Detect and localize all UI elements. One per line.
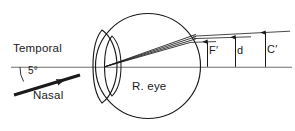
diagram-canvas xyxy=(0,0,295,131)
label-incident-angle: 5° xyxy=(28,66,38,76)
label-nasal: Nasal xyxy=(33,90,63,102)
eye-optics-diagram: Temporal 5° Nasal R. eye F′ d C′ xyxy=(0,0,295,131)
angle-arc xyxy=(20,67,24,81)
label-right-eye: R. eye xyxy=(132,81,166,93)
label-distance: d xyxy=(237,45,243,56)
label-temporal: Temporal xyxy=(13,43,62,55)
label-center-of-rotation: C′ xyxy=(267,44,277,55)
refracted-ray-bundle xyxy=(104,34,196,67)
construction-lines xyxy=(190,31,290,42)
label-focal-point: F′ xyxy=(209,45,218,56)
eye-globe-circle xyxy=(96,14,201,119)
